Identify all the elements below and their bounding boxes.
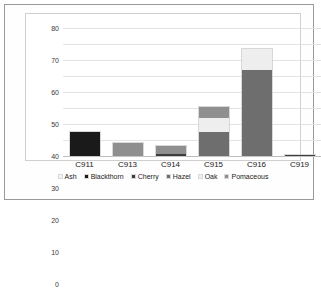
legend-item[interactable]: Cherry [131, 173, 159, 180]
legend-swatch-icon [58, 174, 63, 179]
y-axis-tick-label: 80 [51, 25, 59, 32]
plot-frame: Fragment count 01020304050607080 C911C91… [25, 13, 301, 161]
legend-label: Oak [205, 173, 218, 180]
x-axis-tick-label: C911 [63, 160, 106, 169]
x-axis-tick-label: C914 [149, 160, 192, 169]
x-axis-tick-label: C913 [106, 160, 149, 169]
y-axis-tick-label: 40 [51, 153, 59, 160]
legend-item[interactable]: Pomaceous [224, 173, 268, 180]
bar-slot [106, 28, 149, 156]
legend-item[interactable]: Hazel [166, 173, 191, 180]
legend-swatch-icon [166, 174, 171, 179]
chart-figure: Fragment count 01020304050607080 C911C91… [4, 4, 314, 200]
stacked-bar[interactable] [199, 107, 229, 156]
y-axis-tick-label: 20 [51, 217, 59, 224]
x-axis-tick-label: C919 [278, 160, 321, 169]
bar-segment[interactable] [70, 132, 100, 156]
legend-label: Ash [65, 173, 77, 180]
legend-swatch-icon [224, 174, 229, 179]
bar-segment[interactable] [199, 132, 229, 156]
stacked-bar[interactable] [113, 143, 143, 156]
y-axis-tick-label: 70 [51, 57, 59, 64]
y-axis-title: Fragment count [22, 0, 34, 32]
stacked-bar[interactable] [242, 49, 272, 156]
x-axis-tick-label: C916 [235, 160, 278, 169]
legend-swatch-icon [131, 174, 136, 179]
x-axis-line: 0 [63, 156, 321, 157]
bar-slot [192, 28, 235, 156]
bar-slot [149, 28, 192, 156]
bar-segment[interactable] [113, 143, 143, 156]
stacked-bar[interactable] [156, 146, 186, 156]
legend-swatch-icon [84, 174, 89, 179]
chart-legend: AshBlackthornCherryHazelOakPomaceous [25, 173, 301, 180]
y-axis-tick-label: 30 [51, 185, 59, 192]
legend-label: Blackthorn [91, 173, 124, 180]
bar-segment[interactable] [242, 70, 272, 156]
legend-item[interactable]: Ash [58, 173, 77, 180]
bar-segment[interactable] [199, 107, 229, 117]
plot-area: 01020304050607080 [63, 28, 321, 156]
legend-item[interactable]: Oak [198, 173, 218, 180]
y-axis-tick-label: 10 [51, 249, 59, 256]
bar-segment[interactable] [285, 155, 315, 156]
legend-label: Hazel [173, 173, 191, 180]
legend-label: Pomaceous [231, 173, 268, 180]
x-axis-labels: C911C913C914C915C916C919 [63, 160, 321, 169]
legend-label: Cherry [138, 173, 159, 180]
x-axis-tick-label: C915 [192, 160, 235, 169]
y-axis-tick-label: 60 [51, 89, 59, 96]
stacked-bar[interactable] [285, 155, 315, 156]
y-axis-tick-label: 0 [55, 281, 59, 288]
bar-group [63, 28, 321, 156]
y-axis-tick-label: 50 [51, 121, 59, 128]
bar-segment[interactable] [156, 154, 186, 156]
bar-segment[interactable] [242, 49, 272, 70]
bar-slot [63, 28, 106, 156]
bar-segment[interactable] [156, 146, 186, 154]
legend-swatch-icon [198, 174, 203, 179]
legend-item[interactable]: Blackthorn [84, 173, 124, 180]
bar-segment[interactable] [199, 118, 229, 132]
bar-slot [278, 28, 321, 156]
bar-slot [235, 28, 278, 156]
stacked-bar[interactable] [70, 132, 100, 156]
